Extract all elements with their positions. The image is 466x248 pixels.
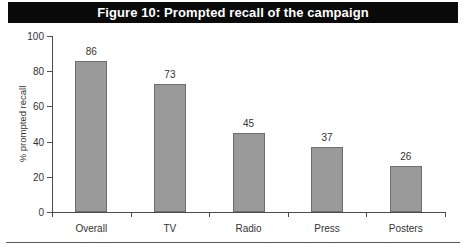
y-axis-title: % prompted recall — [17, 86, 28, 163]
x-category-label: Radio — [235, 223, 261, 234]
bar — [233, 133, 265, 212]
bar-value-label: 45 — [243, 118, 254, 129]
bar — [390, 166, 422, 212]
bottom-divider — [6, 242, 460, 243]
y-tick-label: 100 — [27, 31, 44, 42]
x-tick-mark — [209, 212, 210, 217]
bar — [154, 84, 186, 212]
y-tick-mark — [47, 71, 52, 72]
x-category-label: Overall — [75, 223, 107, 234]
y-tick-mark — [47, 106, 52, 107]
y-tick-label: 80 — [33, 66, 44, 77]
y-tick-mark — [47, 36, 52, 37]
bar — [75, 61, 107, 212]
x-tick-mark — [52, 212, 53, 217]
x-tick-mark — [445, 212, 446, 217]
x-axis-line — [52, 212, 445, 213]
x-tick-mark — [366, 212, 367, 217]
bar-value-label: 73 — [164, 69, 175, 80]
x-tick-mark — [131, 212, 132, 217]
y-tick-label: 40 — [33, 136, 44, 147]
bar-value-label: 86 — [86, 46, 97, 57]
figure-title: Figure 10: Prompted recall of the campai… — [97, 6, 368, 19]
figure-container: Figure 10: Prompted recall of the campai… — [0, 0, 466, 248]
bar-value-label: 26 — [400, 151, 411, 162]
bar-value-label: 37 — [322, 132, 333, 143]
y-tick-label: 60 — [33, 101, 44, 112]
x-category-label: TV — [164, 223, 177, 234]
y-tick-label: 0 — [38, 207, 44, 218]
x-category-label: Press — [314, 223, 340, 234]
y-tick-label: 20 — [33, 171, 44, 182]
bar — [311, 147, 343, 212]
x-category-label: Posters — [389, 223, 423, 234]
figure-title-bar: Figure 10: Prompted recall of the campai… — [8, 2, 458, 23]
y-tick-mark — [47, 142, 52, 143]
x-tick-mark — [288, 212, 289, 217]
y-tick-mark — [47, 177, 52, 178]
